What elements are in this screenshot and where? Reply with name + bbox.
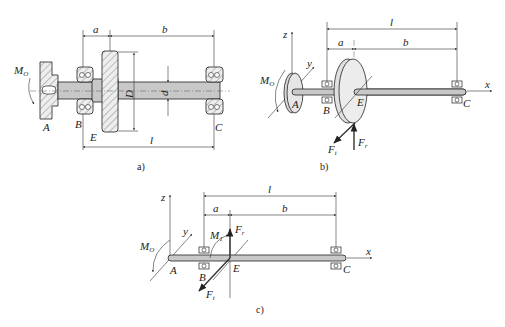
shaft-diagram-figure: MO A B E C a b l D d a): [0, 0, 505, 327]
label-B: B: [199, 271, 206, 283]
label-Ft: Ft: [205, 288, 216, 302]
force-Ft-arrow: [334, 123, 355, 143]
label-y: y: [306, 57, 312, 69]
label-moment-b: MO: [259, 74, 274, 88]
label-E: E: [89, 131, 97, 143]
label-a: a: [338, 36, 344, 48]
figure-b: z y x MO A B E C a b l Ft Fr b): [259, 16, 492, 173]
shaft: [58, 82, 220, 99]
figure-a: MO A B E C a b l D d a): [13, 23, 230, 173]
label-l: l: [268, 183, 271, 195]
diagram-canvas: MO A B E C a b l D d a): [0, 0, 505, 327]
figure-c: z y x MO M1 A B E C a b l Fr Ft c): [139, 183, 372, 316]
label-E: E: [232, 262, 240, 274]
label-b: b: [403, 36, 409, 48]
label-D: D: [123, 90, 135, 99]
label-z: z: [160, 191, 166, 203]
label-moment-c: MO: [139, 240, 154, 254]
label-C: C: [343, 263, 351, 275]
label-C: C: [215, 121, 223, 133]
label-x: x: [365, 245, 371, 257]
label-C: C: [463, 97, 471, 109]
caption-a: a): [137, 161, 145, 173]
label-l: l: [150, 134, 153, 146]
label-moment-a: MO: [13, 64, 28, 78]
gear-E: [102, 51, 118, 132]
moment-arrow-b: [275, 70, 285, 112]
label-d: d: [158, 90, 170, 96]
label-A: A: [291, 98, 299, 110]
label-z: z: [282, 28, 288, 40]
caption-c: c): [256, 304, 264, 316]
label-y: y: [182, 225, 188, 237]
label-M1: M1: [209, 229, 223, 243]
shaft: [168, 255, 346, 261]
label-b: b: [162, 23, 168, 35]
label-B: B: [75, 118, 82, 130]
label-Fr: Fr: [234, 223, 245, 237]
label-Fr: Fr: [357, 136, 368, 150]
label-E: E: [356, 96, 364, 108]
label-Ft: Ft: [327, 143, 338, 157]
label-a: a: [93, 23, 99, 35]
label-A: A: [169, 264, 177, 276]
label-A: A: [42, 121, 50, 133]
label-b: b: [282, 202, 288, 214]
caption-b: b): [320, 161, 328, 173]
label-a: a: [213, 202, 219, 214]
moment-arrow-c: [153, 240, 170, 272]
key-slot: [42, 86, 56, 94]
label-l: l: [390, 16, 393, 28]
label-B: B: [323, 104, 330, 116]
label-x: x: [484, 78, 490, 90]
